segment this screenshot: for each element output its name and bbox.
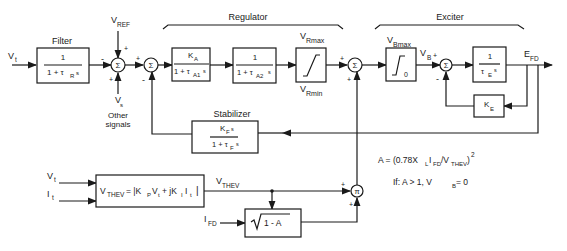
- svg-text:Σ: Σ: [116, 61, 121, 70]
- svg-text:π: π: [354, 187, 359, 196]
- vb-max-label: V Bmax: [387, 35, 411, 48]
- efd-output-label: E FD: [524, 49, 539, 62]
- svg-text:F: F: [226, 129, 230, 135]
- svg-text:REF: REF: [117, 21, 130, 28]
- vt-input-label: V t: [8, 51, 17, 63]
- a-definition-equation: A = (0.78X L I FD /V THEV ) 2: [378, 151, 475, 167]
- svg-text:|: |: [196, 185, 199, 196]
- svg-text:t: t: [52, 194, 54, 201]
- svg-text:Rmax: Rmax: [306, 37, 325, 44]
- svg-text:1: 1: [61, 53, 66, 62]
- ke-to-sum4: [446, 72, 474, 106]
- vr-limiter-block: [296, 48, 326, 82]
- svg-text:s: s: [203, 68, 206, 74]
- other-signals-label-1: Other: [108, 111, 128, 120]
- sum2-plus-sign: +: [136, 55, 140, 62]
- svg-text:V: V: [100, 186, 106, 196]
- svg-text:THEV: THEV: [107, 191, 125, 198]
- svg-text:Rmin: Rmin: [306, 90, 322, 97]
- svg-text:+ jK: + jK: [162, 186, 177, 196]
- svg-text:FD: FD: [530, 55, 539, 62]
- svg-text:A1: A1: [193, 72, 201, 78]
- other-signals-label-2: signals: [106, 120, 131, 129]
- vthev-block: V THEV = |K P V t + jK I I t |: [96, 175, 204, 207]
- vr-min-label: V Rmin: [300, 84, 322, 97]
- svg-text:I: I: [185, 186, 187, 196]
- efd-to-ke: [504, 65, 527, 106]
- vr-max-label: V Rmax: [300, 31, 325, 44]
- vb-signal-label: V B +: [420, 48, 437, 61]
- vthev-signal-label: V THEV: [216, 176, 240, 189]
- svg-text:/V: /V: [441, 155, 449, 165]
- svg-text:Σ: Σ: [149, 61, 154, 70]
- summing-junction-3: Σ: [348, 58, 362, 72]
- svg-text:2: 2: [471, 151, 475, 158]
- vref-label: V REF: [111, 15, 130, 28]
- svg-text:τ: τ: [481, 67, 484, 76]
- exciter-label: Exciter: [436, 12, 464, 22]
- regulator-label: Regulator: [228, 12, 267, 22]
- svg-text:1 + τ: 1 + τ: [237, 68, 253, 77]
- vt-lower-label: V t: [47, 171, 56, 183]
- svg-text:THEV: THEV: [451, 161, 467, 167]
- block-diagram: Regulator Exciter V t Filter 1 1 + τ R s…: [0, 0, 567, 251]
- svg-text:I: I: [204, 214, 207, 224]
- svg-text:If: A > 1, V: If: A > 1, V: [393, 177, 432, 187]
- ifd-label: I FD: [204, 214, 217, 227]
- filter-label: Filter: [52, 36, 72, 46]
- summing-junction-2: Σ: [144, 58, 158, 72]
- sum1-plus-bottom: +: [109, 76, 113, 83]
- svg-text:t: t: [15, 56, 17, 63]
- svg-text:1 - A: 1 - A: [264, 218, 282, 228]
- svg-text:B: B: [427, 54, 431, 61]
- svg-text:1: 1: [488, 52, 493, 61]
- sum1-minus-sign: -: [101, 54, 104, 64]
- svg-text:V: V: [47, 171, 53, 181]
- svg-text:Σ: Σ: [444, 61, 449, 70]
- svg-text:s: s: [120, 102, 123, 108]
- svg-text:0: 0: [404, 71, 408, 78]
- svg-text:+: +: [433, 52, 437, 59]
- svg-text:s: s: [76, 70, 79, 76]
- svg-text:Bmax: Bmax: [393, 41, 411, 48]
- sum1-plus-top: +: [124, 45, 128, 52]
- regulator-bracket: Regulator: [163, 12, 343, 29]
- svg-text:V: V: [8, 51, 14, 61]
- svg-text:): ): [467, 155, 470, 165]
- svg-text:= |K: = |K: [126, 186, 142, 196]
- sum3-plus-bottom: +: [347, 76, 351, 83]
- mult-plus-bottom: +: [349, 201, 353, 208]
- svg-text:Σ: Σ: [353, 61, 358, 70]
- svg-text:FD: FD: [208, 220, 217, 227]
- svg-text:R: R: [70, 73, 75, 79]
- summing-junction-1: Σ: [111, 58, 125, 72]
- mult-plus-left: +: [341, 181, 345, 188]
- exciter-te-block: 1 τ E s: [473, 47, 506, 82]
- svg-text:E: E: [488, 72, 492, 78]
- it-lower-label: I t: [47, 189, 54, 201]
- svg-text:E: E: [490, 106, 494, 112]
- summing-junction-4: Σ: [440, 59, 452, 71]
- ka-block: K A 1 + τ A1 s: [172, 48, 210, 81]
- stabilizer-label: Stabilizer: [213, 109, 250, 119]
- sum4-minus-sign: -: [436, 74, 439, 84]
- svg-text:1: 1: [253, 53, 258, 62]
- stabilizer-block: K F s 1 + τ F s: [192, 121, 258, 153]
- sum3-plus-left: +: [340, 55, 344, 62]
- svg-text:s: s: [231, 126, 234, 132]
- svg-text:I: I: [429, 155, 431, 165]
- svg-text:= 0: = 0: [456, 177, 468, 187]
- svg-text:1 + τ: 1 + τ: [47, 68, 65, 77]
- multiplier-junction: π: [351, 185, 363, 197]
- svg-text:s: s: [494, 67, 497, 73]
- svg-text:A2: A2: [256, 73, 264, 79]
- exciter-bracket: Exciter: [375, 12, 524, 29]
- svg-text:A = (0.78X: A = (0.78X: [378, 155, 418, 165]
- svg-text:t: t: [54, 176, 56, 183]
- a-condition-equation: If: A > 1, V B = 0: [393, 177, 468, 189]
- svg-text:1 + τ: 1 + τ: [174, 67, 190, 76]
- svg-text:s: s: [236, 141, 239, 147]
- vs-label: V s: [115, 95, 123, 108]
- svg-text:F: F: [230, 145, 234, 151]
- svg-text:s: s: [268, 69, 271, 75]
